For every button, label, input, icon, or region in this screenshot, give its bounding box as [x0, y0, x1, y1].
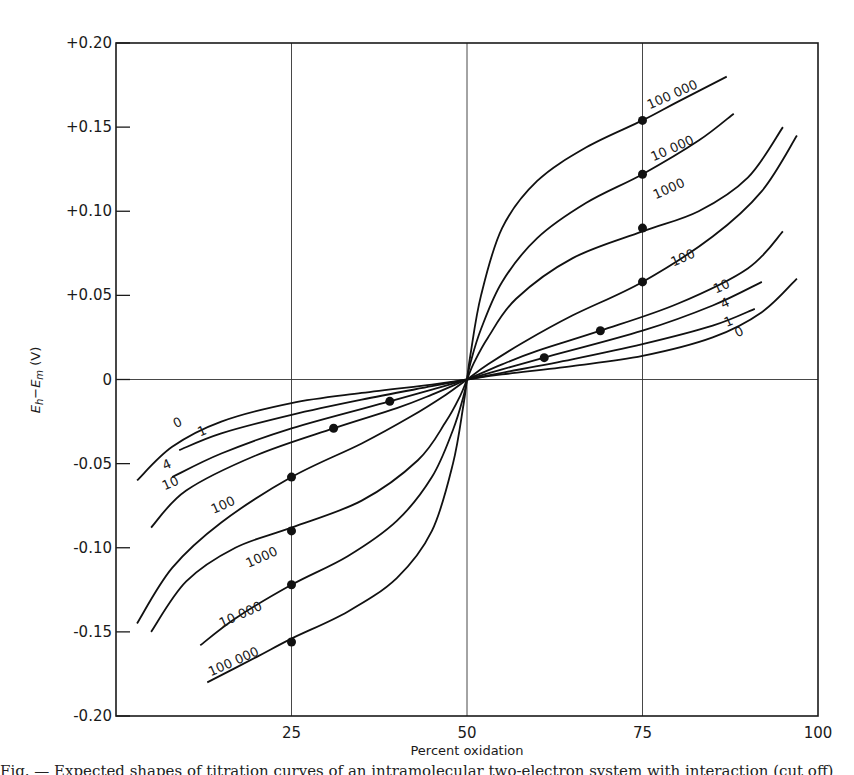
y-tick-label: +0.05	[66, 286, 112, 304]
curve-label-K-0: 0	[171, 414, 185, 431]
curve-label-K-100000: 100 000	[206, 644, 261, 680]
curve-label-K-4: 4	[160, 456, 174, 473]
curve-label-K-10: 10	[160, 473, 181, 493]
data-point-marker	[385, 397, 394, 406]
curve-label-K-1: 1	[722, 313, 736, 330]
data-point-marker	[287, 473, 296, 482]
data-point-marker	[596, 326, 605, 335]
y-axis-ticks: +0.20+0.15+0.10+0.050-0.05-0.10-0.15-0.2…	[66, 34, 130, 725]
curve-label-K-10000: 10 000	[648, 132, 696, 164]
x-axis-ticks: 255075100	[282, 724, 832, 742]
y-axis-title: Eh−Em (V)	[28, 347, 45, 414]
data-point-marker	[287, 637, 296, 646]
data-point-marker	[638, 170, 647, 179]
y-tick-label: -0.10	[73, 539, 112, 557]
titration-chart: +0.20+0.15+0.10+0.050-0.05-0.10-0.15-0.2…	[0, 0, 854, 775]
y-tick-label: -0.20	[73, 707, 112, 725]
y-tick-label: +0.15	[66, 118, 112, 136]
y-tick-label: +0.20	[66, 34, 112, 52]
svg-text:Eh−Em (V): Eh−Em (V)	[28, 347, 45, 414]
figure-caption: Fig. — Expected shapes of titration curv…	[0, 760, 854, 775]
data-point-marker	[638, 116, 647, 125]
y-tick-label: -0.15	[73, 623, 112, 641]
curve-labels: 00114410101001001000100010 00010 000100 …	[160, 77, 746, 680]
curve-label-K-1: 1	[195, 422, 209, 439]
x-tick-label: 25	[282, 724, 301, 742]
curve-label-K-1000: 1000	[651, 175, 687, 202]
curve-label-K-1000: 1000	[243, 544, 279, 571]
x-axis-title: Percent oxidation	[410, 743, 523, 758]
data-point-marker	[287, 580, 296, 589]
x-tick-label: 100	[804, 724, 833, 742]
data-point-marker	[329, 424, 338, 433]
data-point-marker	[638, 224, 647, 233]
x-tick-label: 75	[633, 724, 652, 742]
data-point-marker	[540, 353, 549, 362]
y-tick-label: +0.10	[66, 202, 112, 220]
data-point-marker	[638, 277, 647, 286]
y-tick-label: -0.05	[73, 455, 112, 473]
data-point-marker	[287, 526, 296, 535]
curve-label-K-100: 100	[668, 246, 697, 270]
y-tick-label: 0	[102, 371, 112, 389]
curve-label-K-10000: 10 000	[217, 598, 265, 630]
x-tick-label: 50	[457, 724, 476, 742]
